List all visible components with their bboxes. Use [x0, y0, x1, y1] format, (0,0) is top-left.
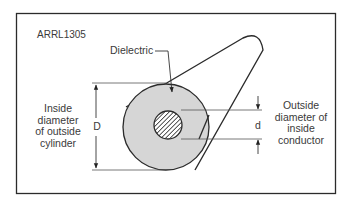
right-caption-line: inside [268, 123, 334, 135]
figure-id-label: ARRL1305 [37, 29, 86, 41]
left-caption-line: cylinder [30, 138, 86, 150]
D-symbol: D [91, 121, 103, 133]
left-caption-line: Inside [30, 103, 86, 115]
right-caption-line: conductor [268, 135, 334, 147]
left-caption: Inside diameter of outside cylinder [30, 103, 86, 149]
inner-conductor [154, 111, 182, 139]
right-caption-line: Outside [268, 100, 334, 112]
d-symbol: d [252, 120, 264, 132]
right-caption: Outside diameter of inside conductor [268, 100, 334, 146]
left-caption-line: of outside [30, 126, 86, 138]
dielectric-label: Dielectric [110, 45, 153, 57]
